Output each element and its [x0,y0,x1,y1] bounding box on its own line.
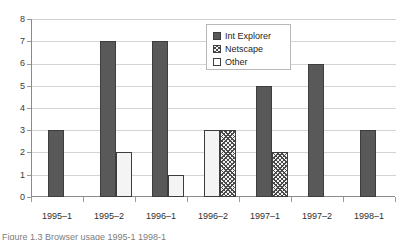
x-tick-mark [343,197,344,202]
bar-int-explorer-1997-1 [256,86,272,197]
bar-int-explorer-1996-1 [152,41,168,197]
x-tick-label-1995-2: 1995–2 [83,211,135,221]
y-tick-label: 0 [3,193,25,202]
gridline [32,86,396,87]
y-tick-label: 1 [3,171,25,180]
x-tick-label-1996-1: 1996–1 [135,211,187,221]
legend-label-other: Other [225,57,248,67]
figure-caption: Figure 1.3 Browser usage 1995-1 1998-1 [2,232,166,240]
legend-label-netscape: Netscape [225,44,263,54]
x-tick-label-1995-1: 1995–1 [31,211,83,221]
bar-other-1996-1 [168,175,184,197]
bar-netscape-1997-1 [272,152,288,197]
bar-int-explorer-1995-1 [48,130,64,197]
y-tick-label: 2 [3,148,25,157]
y-tick-label: 6 [3,59,25,68]
y-tick-label: 3 [3,126,25,135]
x-tick-label-1998-1: 1998–1 [343,211,395,221]
x-tick-mark [187,197,188,202]
chart-legend: Int Explorer Netscape Other [206,24,291,70]
bar-int-explorer-1998-1 [360,130,376,197]
bar-int-explorer-1995-2 [100,41,116,197]
y-tick-label: 5 [3,82,25,91]
y-tick-label: 8 [3,15,25,24]
gridline [32,108,396,109]
legend-entry-netscape: Netscape [213,42,290,55]
bar-other-1996-2 [204,130,220,197]
y-tick-label: 4 [3,104,25,113]
legend-label-int-explorer: Int Explorer [225,31,271,41]
bar-other-1995-2 [116,152,132,197]
bar-int-explorer-1997-2 [308,64,324,197]
legend-entry-other: Other [213,55,290,68]
x-tick-mark [291,197,292,202]
x-tick-mark [31,197,32,202]
gridline [32,19,396,20]
legend-swatch-empty-icon [213,58,221,66]
legend-swatch-solid-icon [213,32,221,40]
browser-usage-bar-chart: 8 7 6 5 4 3 2 1 0 [0,0,407,240]
x-tick-mark [83,197,84,202]
x-tick-mark [395,197,396,202]
legend-swatch-hatched-icon [213,45,221,53]
x-tick-mark [239,197,240,202]
x-tick-mark [135,197,136,202]
y-tick-label: 7 [3,37,25,46]
x-tick-label-1997-2: 1997–2 [291,211,343,221]
legend-entry-int-explorer: Int Explorer [213,29,290,42]
bar-netscape-1996-2 [220,130,236,197]
x-tick-label-1996-2: 1996–2 [187,211,239,221]
x-tick-label-1997-1: 1997–1 [239,211,291,221]
